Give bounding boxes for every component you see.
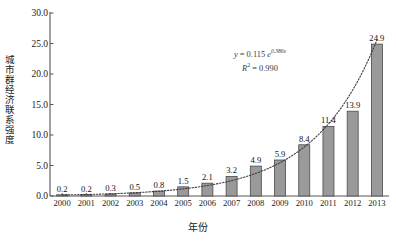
r-squared-value: = 0.990 — [250, 64, 278, 73]
bar-value-label: 24.9 — [369, 33, 384, 43]
bar-value-label: 3.2 — [226, 165, 237, 175]
regression-equation-annotation: y = 0.115 e0.386x R2 = 0.990 — [214, 46, 306, 74]
bar-value-label: 0.2 — [81, 184, 92, 194]
x-tick-label: 2004 — [150, 198, 167, 208]
equation-operator: = 0.115 — [238, 50, 268, 59]
x-tick-label: 2008 — [247, 198, 264, 208]
x-axis-title: 年份 — [0, 219, 396, 234]
x-tick-label: 2005 — [175, 198, 192, 208]
bar-value-label: 0.8 — [154, 180, 165, 190]
bar-value-label: 11.4 — [321, 115, 336, 125]
x-tick-label: 2011 — [320, 198, 337, 208]
x-tick-label: 2003 — [126, 198, 143, 208]
bar-value-label: 13.9 — [345, 100, 360, 110]
equation-exponent: 0.386x — [271, 48, 286, 54]
equation-line: y = 0.115 e0.386x — [214, 46, 306, 60]
x-tick-label: 2001 — [78, 198, 95, 208]
r-squared-line: R2 = 0.990 — [214, 60, 306, 74]
x-tick-label: 2000 — [54, 198, 71, 208]
x-axis-tick-labels: 2000200120022003200420052006200720082009… — [0, 198, 396, 214]
bar-value-label: 1.5 — [178, 176, 189, 186]
bar-value-label: 4.9 — [250, 155, 261, 165]
bar-value-label: 0.5 — [129, 182, 140, 192]
x-tick-label: 2006 — [199, 198, 216, 208]
bar-value-label: 0.2 — [57, 184, 68, 194]
economic-linkage-intensity-chart: 城市群经济联系强度 0.05.010.015.020.025.030.0 0.2… — [0, 0, 396, 244]
x-tick-label: 2010 — [296, 198, 313, 208]
bar-value-label: 5.9 — [275, 149, 286, 159]
x-tick-label: 2012 — [344, 198, 361, 208]
bar-value-label: 0.3 — [105, 183, 116, 193]
bar-value-label: 8.4 — [299, 134, 310, 144]
bar-value-label: 2.1 — [202, 172, 213, 182]
x-tick-label: 2009 — [271, 198, 288, 208]
x-tick-label: 2002 — [102, 198, 119, 208]
x-tick-label: 2013 — [368, 198, 385, 208]
x-tick-label: 2007 — [223, 198, 240, 208]
